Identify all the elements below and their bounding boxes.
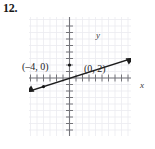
marked-point-x-intercept <box>42 85 45 88</box>
problem-number: 12. <box>3 2 17 15</box>
marked-point-y-intercept <box>68 63 71 66</box>
point-label-y-intercept: (0, 2) <box>84 63 106 74</box>
line-arrowhead-left <box>29 85 34 92</box>
plot-canvas <box>29 17 131 136</box>
coordinate-plane: y <box>29 17 131 136</box>
y-axis-label: y <box>96 31 100 40</box>
point-label-x-intercept: (–4, 0) <box>22 61 49 72</box>
y-axis <box>66 17 73 136</box>
x-axis-label: x <box>140 81 144 90</box>
line-arrowhead-right <box>126 58 131 65</box>
math-figure: 12. <box>0 0 155 149</box>
